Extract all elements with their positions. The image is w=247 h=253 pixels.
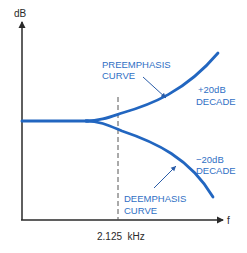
plus-slope-label-line2: DECADE xyxy=(196,96,236,107)
deemphasis-label-line1: DEEMPHASIS xyxy=(124,193,186,204)
plus-slope-label-line1: +20dB xyxy=(198,84,226,95)
preemphasis-label-line1: PREEMPHASIS xyxy=(102,59,171,70)
corner-frequency-label: 2.125 kHz xyxy=(97,231,145,242)
minus-slope-label-line1: −20dB xyxy=(196,154,224,165)
x-axis-label: f xyxy=(227,215,230,226)
deemphasis-curve xyxy=(86,121,213,197)
preemphasis-pointer-arrow xyxy=(143,77,166,98)
minus-slope-label-line2: DECADE xyxy=(196,165,236,176)
y-axis-label: dB xyxy=(14,8,27,19)
preemphasis-label-line2: CURVE xyxy=(102,70,135,81)
deemphasis-pointer-arrow xyxy=(154,166,176,188)
emphasis-chart: dB f 2.125 kHz PREEMPHASIS CURVE +20dB D… xyxy=(0,0,247,253)
deemphasis-label-line2: CURVE xyxy=(124,205,157,216)
